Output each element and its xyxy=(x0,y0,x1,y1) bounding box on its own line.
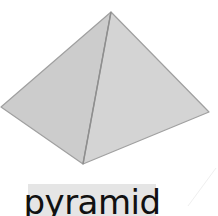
pyramid-illustration xyxy=(0,0,218,180)
label-box: pyramid xyxy=(28,184,156,216)
shape-label: pyramid xyxy=(23,184,160,216)
